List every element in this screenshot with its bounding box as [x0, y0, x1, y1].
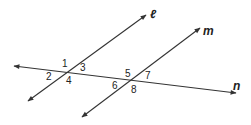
- angle-label-6: 6: [112, 80, 118, 91]
- angle-label-3: 3: [80, 62, 86, 73]
- angle-label-8: 8: [131, 84, 137, 95]
- line-label-m: m: [203, 24, 214, 38]
- line-label-ell: ℓ: [150, 7, 157, 21]
- line-label-n: n: [233, 79, 240, 93]
- angle-label-5: 5: [125, 68, 131, 79]
- angle-label-1: 1: [62, 58, 68, 69]
- angle-label-4: 4: [66, 75, 72, 86]
- angle-label-7: 7: [145, 70, 151, 81]
- line-m: [82, 28, 200, 117]
- diagram-canvas: ℓmn 13245768: [0, 0, 251, 125]
- line-ell: [28, 15, 146, 101]
- angle-label-2: 2: [46, 71, 52, 82]
